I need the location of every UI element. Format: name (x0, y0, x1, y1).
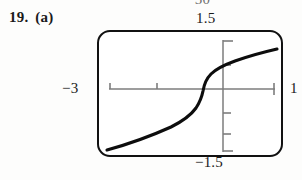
clipped-text-from-figure-above: −50 (186, 0, 210, 8)
calculator-viewing-window (97, 30, 283, 157)
exercise-label: 19.(a) (9, 9, 53, 26)
x-min-range-label: −3 (62, 80, 78, 97)
x-max-range-label: 1 (290, 80, 298, 97)
plot-area (99, 32, 285, 159)
exercise-number: 19. (9, 9, 28, 25)
plotted-curve (107, 49, 277, 150)
exercise-part-label: (a) (35, 9, 53, 25)
y-min-range-label: −1.5 (195, 154, 223, 171)
y-max-range-label: 1.5 (196, 10, 215, 27)
figure-container: −50 19.(a) 1.5 −1.5 −3 1 (0, 0, 302, 180)
